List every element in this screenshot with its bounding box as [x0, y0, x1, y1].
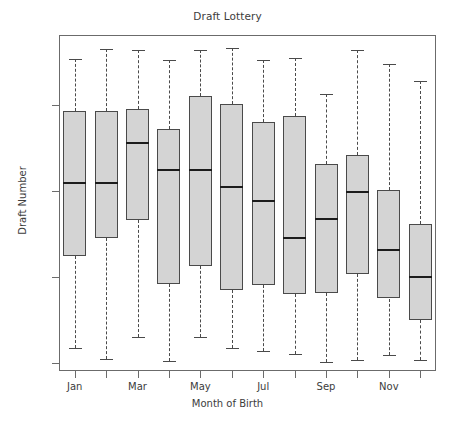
x-tick-label: Jul — [233, 381, 293, 392]
median-line-nov — [377, 249, 400, 251]
x-tick-mark — [75, 371, 76, 378]
whisker-cap-upper — [226, 48, 239, 49]
median-line-may — [189, 169, 212, 171]
whisker-upper — [357, 50, 358, 155]
chart-title: Draft Lottery — [0, 10, 455, 22]
whisker-upper — [200, 50, 201, 96]
median-line-aug — [283, 237, 306, 239]
x-tick-label: Mar — [108, 381, 168, 392]
whisker-lower — [169, 284, 170, 361]
x-tick-mark — [200, 371, 201, 378]
whisker-cap-lower — [414, 360, 427, 361]
x-tick-mark — [263, 371, 264, 378]
whisker-cap-upper — [289, 58, 302, 59]
median-line-oct — [346, 191, 369, 193]
whisker-upper — [138, 50, 139, 109]
x-tick-mark — [326, 371, 327, 378]
whisker-lower — [389, 299, 390, 356]
whisker-upper — [295, 58, 296, 116]
box-may — [189, 96, 212, 266]
draft-lottery-boxplot: Draft Lottery Draft Number Month of Birt… — [0, 0, 455, 427]
whisker-cap-upper — [414, 81, 427, 82]
x-tick-mark — [232, 371, 233, 378]
x-tick-mark — [420, 371, 421, 378]
x-tick-mark — [106, 371, 107, 378]
median-line-jul — [252, 200, 275, 202]
whisker-cap-upper — [194, 50, 207, 51]
y-tick-mark — [52, 363, 59, 364]
x-tick-mark — [138, 371, 139, 378]
whisker-upper — [263, 60, 264, 122]
x-tick-label: May — [170, 381, 230, 392]
x-tick-mark — [169, 371, 170, 378]
whisker-cap-lower — [320, 362, 333, 363]
box-jul — [252, 122, 275, 285]
y-axis-label: Draft Number — [17, 141, 28, 261]
box-jun — [220, 104, 243, 290]
median-line-jun — [220, 186, 243, 188]
whisker-cap-lower — [163, 361, 176, 362]
whisker-cap-upper — [100, 49, 113, 50]
whisker-cap-lower — [289, 354, 302, 355]
whisker-cap-upper — [320, 94, 333, 95]
whisker-cap-upper — [69, 59, 82, 60]
whisker-lower — [138, 220, 139, 337]
whisker-cap-lower — [351, 360, 364, 361]
median-line-dec — [409, 276, 432, 278]
whisker-cap-lower — [194, 337, 207, 338]
y-tick-mark — [52, 191, 59, 192]
whisker-cap-lower — [100, 359, 113, 360]
y-tick-mark — [52, 105, 59, 106]
median-line-jan — [63, 182, 86, 184]
x-tick-mark — [357, 371, 358, 378]
median-line-apr — [157, 169, 180, 171]
whisker-cap-upper — [257, 60, 270, 61]
whisker-lower — [420, 320, 421, 360]
y-tick-mark — [52, 277, 59, 278]
box-sep — [315, 164, 338, 293]
median-line-sep — [315, 218, 338, 220]
whisker-upper — [75, 59, 76, 111]
whisker-upper — [420, 81, 421, 224]
whisker-lower — [295, 294, 296, 353]
whisker-cap-upper — [351, 50, 364, 51]
whisker-cap-lower — [257, 351, 270, 352]
whisker-upper — [389, 64, 390, 190]
box-oct — [346, 155, 369, 274]
box-dec — [409, 224, 432, 320]
whisker-cap-lower — [383, 355, 396, 356]
box-mar — [126, 109, 149, 220]
whisker-cap-lower — [132, 337, 145, 338]
whisker-lower — [263, 285, 264, 351]
whisker-lower — [200, 266, 201, 337]
x-tick-label: Sep — [296, 381, 356, 392]
box-aug — [283, 116, 306, 294]
whisker-upper — [232, 48, 233, 104]
whisker-upper — [326, 94, 327, 165]
x-tick-label: Nov — [359, 381, 419, 392]
x-tick-mark — [389, 371, 390, 378]
whisker-lower — [106, 238, 107, 358]
box-nov — [377, 190, 400, 298]
x-tick-label: Jan — [45, 381, 105, 392]
whisker-upper — [106, 49, 107, 111]
whisker-lower — [232, 290, 233, 348]
box-feb — [95, 111, 118, 238]
median-line-mar — [126, 142, 149, 144]
whisker-lower — [357, 274, 358, 360]
whisker-cap-upper — [163, 60, 176, 61]
whisker-upper — [169, 60, 170, 129]
median-line-feb — [95, 182, 118, 184]
whisker-cap-upper — [132, 50, 145, 51]
box-apr — [157, 129, 180, 284]
x-tick-mark — [295, 371, 296, 378]
whisker-cap-upper — [383, 64, 396, 65]
whisker-lower — [75, 256, 76, 348]
whisker-lower — [326, 293, 327, 362]
x-axis-label: Month of Birth — [0, 398, 455, 409]
whisker-cap-lower — [69, 348, 82, 349]
whisker-cap-lower — [226, 348, 239, 349]
